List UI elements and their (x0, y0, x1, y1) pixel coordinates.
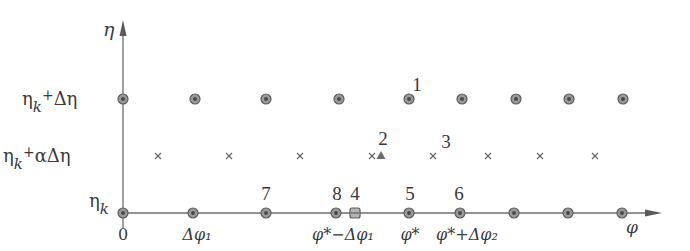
point-number-label: 8 (332, 183, 342, 204)
node-circle-icon (188, 208, 198, 218)
node-circle-icon (331, 208, 341, 218)
x-tick-label: φ*−Δφ₁ (312, 225, 374, 244)
node-circle-icon (261, 94, 271, 104)
middle-row-crosses (155, 153, 598, 159)
node-circle-icon (404, 208, 414, 218)
cross-icon (369, 153, 375, 159)
point-number-label: 5 (405, 183, 415, 204)
node-circle-icon (564, 94, 574, 104)
node-circle-icon (563, 208, 573, 218)
cross-icon (226, 153, 232, 159)
triangle-marker-icon (377, 151, 386, 159)
node-circle-icon (457, 94, 467, 104)
cross-icon (297, 153, 303, 159)
row-label-middle: ηk+αΔη (3, 144, 71, 173)
node-circle-icon (511, 94, 521, 104)
cross-icon (430, 153, 436, 159)
row-labels: ηk+Δη ηk+αΔη ηk (3, 87, 109, 218)
point-number-label: 7 (261, 183, 271, 204)
point-number-label: 4 (350, 183, 360, 204)
x-tick-label: 0 (118, 225, 128, 244)
point-number-label: 6 (454, 183, 464, 204)
top-row-nodes (118, 94, 628, 104)
point-numbers: 12345678 (261, 74, 464, 204)
x-tick-labels: 0Δφ₁φ*−Δφ₁φ*φ*+Δφ₂ (118, 225, 498, 244)
cross-icon (155, 153, 161, 159)
node-circle-icon (455, 208, 465, 218)
node-circle-icon (261, 208, 271, 218)
x-tick-label: φ* (400, 225, 419, 244)
cross-icon (592, 153, 598, 159)
point-number-label: 2 (378, 128, 388, 149)
row-label-top: ηk+Δη (22, 87, 77, 116)
phi-axis-arrow-icon (645, 210, 662, 217)
eta-axis-arrow-icon (120, 20, 127, 36)
eta-axis-label: η (103, 18, 115, 40)
point-number-label: 1 (412, 74, 422, 95)
x-tick-label: φ*+Δφ₂ (436, 225, 498, 244)
cross-icon (485, 153, 491, 159)
grid-diagram: η φ ηk+Δη ηk+αΔη ηk 12345678 0Δφ₁φ*−Δφ₁φ… (0, 0, 690, 251)
node-circle-icon (334, 94, 344, 104)
cross-icon (537, 153, 543, 159)
node-circle-icon (404, 94, 414, 104)
node-circle-icon (617, 208, 627, 218)
row-label-bottom: ηk (89, 190, 109, 218)
node-circle-icon (190, 94, 200, 104)
node-circle-icon (118, 94, 128, 104)
node-circle-icon (118, 208, 128, 218)
node-circle-icon (618, 94, 628, 104)
node-circle-icon (509, 208, 519, 218)
square-marker-icon (350, 208, 360, 218)
phi-axis-label: φ (626, 217, 638, 237)
x-tick-label: Δφ₁ (181, 225, 211, 244)
point-number-label: 3 (441, 131, 451, 152)
